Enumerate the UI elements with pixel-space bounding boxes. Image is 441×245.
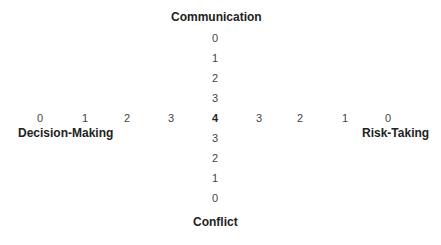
axis-label-conflict: Conflict — [193, 215, 238, 229]
scale-conflict-1: 1 — [205, 172, 225, 184]
scale-decision-3: 3 — [161, 112, 181, 124]
axis-label-decision-making: Decision-Making — [18, 126, 113, 140]
scale-decision-2: 2 — [117, 112, 137, 124]
scale-risk-0: 0 — [378, 112, 398, 124]
scale-decision-1: 1 — [75, 112, 95, 124]
center-value: 4 — [205, 112, 225, 124]
scale-communication-3: 3 — [205, 92, 225, 104]
scale-communication-0: 0 — [205, 32, 225, 44]
scale-risk-1: 1 — [335, 112, 355, 124]
scale-communication-1: 1 — [205, 52, 225, 64]
scale-communication-2: 2 — [205, 72, 225, 84]
scale-conflict-2: 2 — [205, 152, 225, 164]
scale-risk-2: 2 — [290, 112, 310, 124]
axis-label-risk-taking: Risk-Taking — [362, 126, 429, 140]
scale-risk-3: 3 — [249, 112, 269, 124]
scale-conflict-3: 3 — [205, 132, 225, 144]
scale-conflict-0: 0 — [205, 192, 225, 204]
scale-decision-0: 0 — [30, 112, 50, 124]
axis-label-communication: Communication — [171, 10, 262, 24]
